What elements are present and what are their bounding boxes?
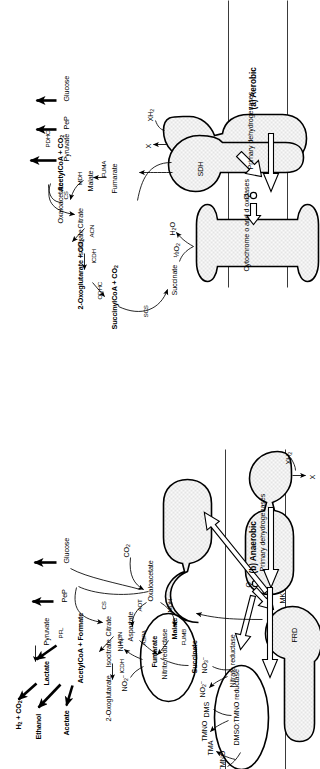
anaerobic-label-oxaloacetate: Oxaloacetate xyxy=(146,560,153,601)
anaerobic-label-lactate: Lactate xyxy=(42,661,49,685)
anaerobic-electron-arrow-nitrate xyxy=(235,595,255,649)
anaerobic-label-xh2: XH2 xyxy=(284,451,292,464)
anaerobic-label-glucose: Glucose xyxy=(62,537,69,563)
aerobic-xh2-hook xyxy=(155,120,164,130)
anaerobic-label-x: X xyxy=(308,474,315,479)
anaerobic-label-oxoglutarate: 2-Oxoglutarate xyxy=(104,675,111,721)
figure-page: (a) Aerobic Glucose PeP Pyruvate PDHC Ac… xyxy=(0,0,320,769)
anaerobic-carrier-q: Q xyxy=(244,582,251,588)
aerobic-q-node xyxy=(250,192,256,198)
anaerobic-label-nitrite-in: NO2– xyxy=(120,675,128,691)
aerobic-label-oxoglutarate-co2: 2-Oxoglutarate + CO2 xyxy=(76,238,84,309)
anaerobic-enzyme-icdh: ICDH xyxy=(118,659,124,673)
aerobic-complex-primary-dehydrogenases: Primary dehydrogenases xyxy=(246,99,253,169)
anaerobic-label-h2-co2: H2 + CO2 xyxy=(14,700,22,729)
anaerobic-label-aspartate: Aspartate xyxy=(126,611,133,641)
aerobic-label-succinate: Succinate xyxy=(170,264,177,295)
anaerobic-enzyme-fumb: FUMB xyxy=(180,628,186,645)
anaerobic-label-nitrate: NO3– xyxy=(200,657,208,673)
panel-title-anaerobic: (b) Anaerobic xyxy=(248,521,256,573)
aerobic-succinate-to-sdh xyxy=(137,162,171,200)
anaerobic-pyruvate-to-acetylcoa xyxy=(36,645,56,659)
anaerobic-label-tma: TMA xyxy=(206,740,213,755)
anaerobic-label-nitrite-out: NO2– xyxy=(198,681,206,697)
aerobic-enzyme-icdh: ICDH xyxy=(90,249,96,263)
anaerobic-label-dms: TMNO xyxy=(200,720,207,741)
anaerobic-complex-primary-dehydrogenases: Primary dehydrogenases xyxy=(258,497,265,571)
aerobic-enzyme-odhc: ODHC xyxy=(96,282,102,299)
anaerobic-complex-dmso-tmno-reductase: DMSO:TMNO reductase xyxy=(232,687,239,745)
aerobic-oxygen-hook xyxy=(179,246,193,261)
anaerobic-enzyme-aot: AOT xyxy=(136,599,142,611)
aerobic-label-xh2: XH2 xyxy=(146,108,154,121)
anaerobic-succinate-to-frd xyxy=(196,613,262,619)
aerobic-enzyme-acn: ACN xyxy=(88,225,94,237)
anaerobic-label-pep: PeP xyxy=(60,589,67,602)
aerobic-enzyme-fuma: FUMA xyxy=(100,160,106,177)
anaerobic-complex-nitrite-reductase: Nitrite reductase xyxy=(160,633,167,679)
anaerobic-acetylcoa-to-acetate xyxy=(66,685,72,705)
anaerobic-enzyme-mdh: MDH xyxy=(166,599,172,613)
anaerobic-acetylcoa-to-ethanol xyxy=(38,684,60,707)
aerobic-label-pep: PeP xyxy=(62,116,69,129)
anaerobic-cs-curve xyxy=(78,586,148,594)
aerobic-label-glucose: Glucose xyxy=(62,75,69,101)
anaerobic-label-citrate: Citrate xyxy=(104,616,111,636)
aerobic-label-oxaloacetate: Oxaloacetate xyxy=(56,182,63,223)
anaerobic-label-tmno: TMNO xyxy=(218,750,225,769)
anaerobic-label-ethanol: Ethanol xyxy=(34,713,41,739)
anaerobic-label-acetylcoa-formate: AcetylCoA + Formate xyxy=(76,612,83,683)
anaerobic-ammonium-arrow xyxy=(124,649,142,659)
anaerobic-label-isocitrate: Isocitrate xyxy=(104,639,111,667)
anaerobic-co2-to-oxaloacetate xyxy=(130,557,143,589)
aerobic-label-water: H2O xyxy=(168,222,176,235)
anaerobic-label-ammonium: NH4+ xyxy=(116,635,124,651)
anaerobic-frd-shape xyxy=(265,606,320,741)
aerobic-enzyme-pdhc: PDHC xyxy=(44,130,50,147)
anaerobic-enzyme-cs: CS xyxy=(100,601,106,609)
anaerobic-pep-to-oxaloacetate xyxy=(70,568,140,589)
anaerobic-label-fumarate: Fumarate xyxy=(150,635,157,667)
aerobic-label-succinylcoa-co2: SuccinylCoA + CO2 xyxy=(110,265,118,329)
aerobic-complex-cytochrome-oxidases: Cytochrome o and d oxidases xyxy=(242,213,249,271)
anaerobic-label-dmso: DMS xyxy=(202,701,209,717)
anaerobic-label-malate: Malate xyxy=(170,617,177,639)
figure-canvas: (a) Aerobic Glucose PeP Pyruvate PDHC Ac… xyxy=(0,0,320,769)
aerobic-label-citrate: Citrate xyxy=(76,208,83,228)
aerobic-sdh-shape xyxy=(168,135,303,191)
aerobic-enzyme-mdh: MDH xyxy=(76,172,82,186)
anaerobic-label-pyruvate: Pyruvate xyxy=(42,617,49,645)
anaerobic-carrier-mk: MK xyxy=(278,592,285,603)
aerobic-label-oxygen: ½O2 xyxy=(172,243,180,257)
anaerobic-enzyme-aspa: ASPA xyxy=(140,630,146,645)
aerobic-label-fumarate: Fumarate xyxy=(110,163,117,193)
anaerobic-enzyme-pfl: PFL xyxy=(57,627,63,638)
aerobic-label-malate: Malate xyxy=(86,170,93,191)
anaerobic-nitrite-in-hook xyxy=(130,666,143,677)
anaerobic-label-co2: CO2 xyxy=(122,544,130,557)
aerobic-label-x: X xyxy=(144,143,151,148)
anaerobic-acetylcoa-to-h2co2 xyxy=(18,683,36,699)
anaerobic-label-acetate: Acetate xyxy=(62,710,69,735)
anaerobic-complex-frd: FRD xyxy=(290,628,297,642)
aerobic-complex-sdh: SDH xyxy=(196,161,203,176)
aerobic-enzyme-scs: SCS xyxy=(142,305,148,317)
anaerobic-label-succinate: Succinate xyxy=(190,640,197,673)
aerobic-carrier-q: Q xyxy=(242,194,249,200)
